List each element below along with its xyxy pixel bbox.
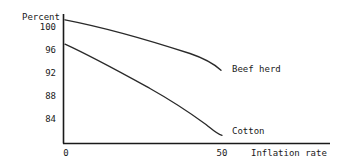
y-tick-label-92: 92 — [22, 68, 56, 78]
series-label-beef-herd: Beef herd — [232, 64, 281, 74]
x-axis-title: Inflation rate — [251, 148, 327, 158]
series-line-cotton — [65, 44, 222, 135]
series-line-beef-herd — [65, 20, 221, 70]
y-tick-label-84: 84 — [22, 114, 56, 124]
x-tick-label-50: 50 — [212, 148, 232, 158]
y-tick-label-96: 96 — [22, 45, 56, 55]
y-axis-title: Percent — [22, 12, 60, 22]
y-tick-label-100: 100 — [22, 22, 56, 32]
y-tick-label-88: 88 — [22, 91, 56, 101]
chart-figure: Percent 100 96 92 88 84 0 50 Inflation r… — [0, 0, 341, 166]
series-label-cotton: Cotton — [232, 126, 265, 136]
x-tick-label-0: 0 — [56, 148, 76, 158]
